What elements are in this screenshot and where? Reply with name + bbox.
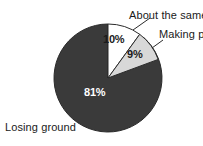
category-label-about-the-same: About the same [129, 10, 203, 21]
leader-line-making-progress [152, 40, 163, 48]
pie-chart: 81% 10% 9% Losing ground About the same … [0, 0, 203, 146]
slice-value-making-progress: 9% [127, 49, 143, 60]
category-label-making-progress: Making pr [159, 29, 203, 40]
category-label-losing-ground: Losing ground [5, 122, 76, 133]
slice-value-losing-ground: 81% [84, 87, 105, 98]
slice-value-about-the-same: 10% [103, 34, 124, 45]
